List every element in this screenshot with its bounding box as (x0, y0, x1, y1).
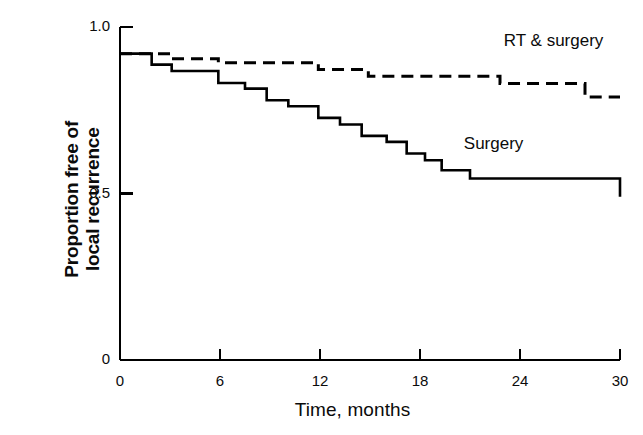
x-tick-label-18: 18 (400, 372, 440, 389)
y-tick-label-1.0: 1.0 (64, 17, 110, 34)
y-tick-label-0: 0 (64, 350, 110, 367)
kaplan-meier-chart: Proportion free of local recurrence Time… (0, 0, 643, 435)
x-tick-label-30: 30 (600, 372, 640, 389)
series-label-rt-surgery: RT & surgery (504, 31, 604, 51)
series-lines (120, 54, 620, 197)
y-tick-label-0.5: 0.5 (64, 184, 110, 201)
x-tick-label-6: 6 (200, 372, 240, 389)
x-axis-title: Time, months (0, 399, 643, 421)
x-tick-label-0: 0 (100, 372, 140, 389)
x-axis-title-text: Time, months (295, 399, 411, 420)
x-tick-label-24: 24 (500, 372, 540, 389)
series-line-rt-surgery (120, 54, 620, 97)
x-tick-label-12: 12 (300, 372, 340, 389)
series-label-surgery: Surgery (464, 134, 524, 154)
